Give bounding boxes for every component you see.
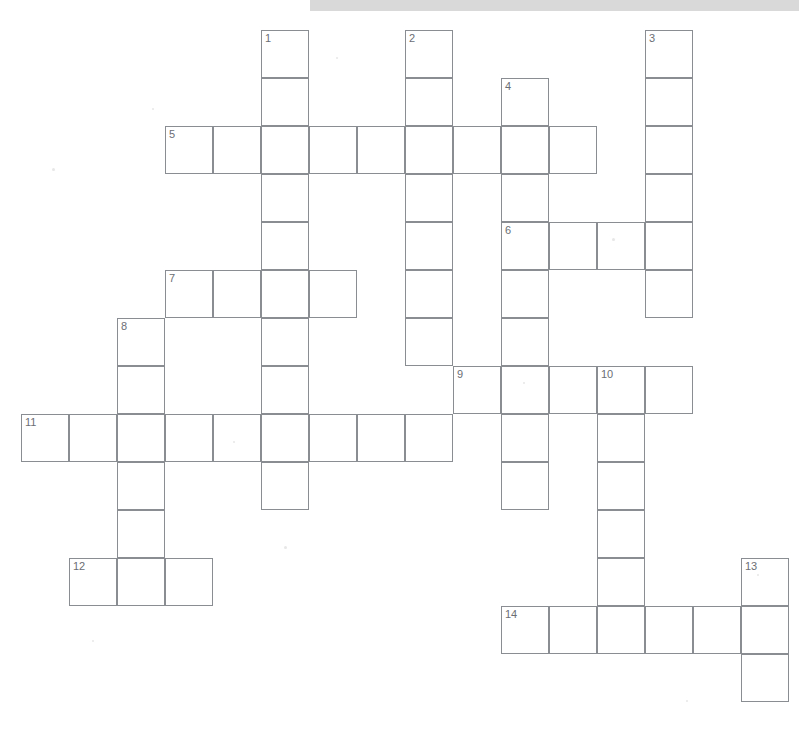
grid-cell-r11-c15[interactable]: 13 [741,558,789,606]
clue-number-1: 1 [265,32,271,45]
grid-cell-r12-c14[interactable] [693,606,741,654]
crossword-grid[interactable]: 1234567891011121314 [0,0,799,729]
grid-cell-r4-c12[interactable] [597,222,645,270]
grid-cell-r2-c4[interactable] [213,126,261,174]
clue-number-4: 4 [505,80,511,93]
grid-cell-r4-c8[interactable] [405,222,453,270]
grid-cell-r6-c2[interactable]: 8 [117,318,165,366]
grid-cell-r7-c9[interactable]: 9 [453,366,501,414]
clue-number-9: 9 [457,368,463,381]
paper-speck-0 [52,168,55,171]
grid-cell-r1-c10[interactable]: 4 [501,78,549,126]
grid-cell-r8-c8[interactable] [405,414,453,462]
paper-speck-2 [336,57,338,59]
paper-speck-4 [612,238,615,241]
clue-number-11: 11 [25,416,36,429]
grid-cell-r6-c10[interactable] [501,318,549,366]
grid-cell-r3-c5[interactable] [261,174,309,222]
paper-speck-1 [152,108,154,110]
paper-speck-9 [686,700,688,702]
grid-cell-r5-c4[interactable] [213,270,261,318]
clue-number-13: 13 [745,560,757,573]
clue-number-3: 3 [649,32,655,45]
grid-cell-r11-c12[interactable] [597,558,645,606]
grid-cell-r3-c10[interactable] [501,174,549,222]
clue-number-2: 2 [409,32,415,45]
grid-cell-r8-c2[interactable] [117,414,165,462]
clue-number-10: 10 [601,368,613,381]
paper-speck-8 [92,640,94,642]
grid-cell-r9-c2[interactable] [117,462,165,510]
grid-cell-r11-c1[interactable]: 12 [69,558,117,606]
grid-cell-r2-c9[interactable] [453,126,501,174]
grid-cell-r5-c10[interactable] [501,270,549,318]
grid-cell-r12-c12[interactable] [597,606,645,654]
grid-cell-r12-c10[interactable]: 14 [501,606,549,654]
grid-cell-r1-c13[interactable] [645,78,693,126]
grid-cell-r8-c1[interactable] [69,414,117,462]
grid-cell-r8-c6[interactable] [309,414,357,462]
grid-cell-r2-c7[interactable] [357,126,405,174]
grid-cell-r8-c5[interactable] [261,414,309,462]
grid-cell-r12-c11[interactable] [549,606,597,654]
clue-number-12: 12 [73,560,85,573]
grid-cell-r8-c4[interactable] [213,414,261,462]
clue-number-5: 5 [169,128,175,141]
grid-cell-r9-c5[interactable] [261,462,309,510]
grid-cell-r5-c6[interactable] [309,270,357,318]
clue-number-14: 14 [505,608,517,621]
grid-cell-r6-c5[interactable] [261,318,309,366]
grid-cell-r8-c12[interactable] [597,414,645,462]
grid-cell-r7-c10[interactable] [501,366,549,414]
grid-cell-r5-c3[interactable]: 7 [165,270,213,318]
grid-cell-r2-c3[interactable]: 5 [165,126,213,174]
grid-cell-r6-c8[interactable] [405,318,453,366]
grid-cell-r3-c8[interactable] [405,174,453,222]
grid-cell-r7-c12[interactable]: 10 [597,366,645,414]
grid-cell-r11-c3[interactable] [165,558,213,606]
grid-cell-r7-c2[interactable] [117,366,165,414]
paper-speck-7 [757,574,759,576]
grid-cell-r12-c13[interactable] [645,606,693,654]
grid-cell-r1-c5[interactable] [261,78,309,126]
grid-cell-r8-c10[interactable] [501,414,549,462]
grid-cell-r13-c15[interactable] [741,654,789,702]
grid-cell-r11-c2[interactable] [117,558,165,606]
grid-cell-r7-c11[interactable] [549,366,597,414]
grid-cell-r8-c7[interactable] [357,414,405,462]
grid-cell-r2-c8[interactable] [405,126,453,174]
grid-cell-r4-c13[interactable] [645,222,693,270]
grid-cell-r2-c6[interactable] [309,126,357,174]
clue-number-8: 8 [121,320,127,333]
grid-cell-r4-c11[interactable] [549,222,597,270]
grid-cell-r2-c10[interactable] [501,126,549,174]
grid-cell-r2-c5[interactable] [261,126,309,174]
grid-cell-r4-c10[interactable]: 6 [501,222,549,270]
clue-number-6: 6 [505,224,511,237]
grid-cell-r1-c8[interactable] [405,78,453,126]
grid-cell-r0-c13[interactable]: 3 [645,30,693,78]
grid-cell-r3-c13[interactable] [645,174,693,222]
grid-cell-r4-c5[interactable] [261,222,309,270]
grid-cell-r7-c13[interactable] [645,366,693,414]
grid-cell-r5-c13[interactable] [645,270,693,318]
paper-speck-5 [233,441,235,443]
paper-speck-3 [284,546,287,549]
grid-cell-r7-c5[interactable] [261,366,309,414]
clue-number-7: 7 [169,272,175,285]
grid-cell-r0-c5[interactable]: 1 [261,30,309,78]
grid-cell-r8-c3[interactable] [165,414,213,462]
grid-cell-r2-c13[interactable] [645,126,693,174]
grid-cell-r9-c10[interactable] [501,462,549,510]
grid-cell-r10-c2[interactable] [117,510,165,558]
grid-cell-r9-c12[interactable] [597,462,645,510]
grid-cell-r10-c12[interactable] [597,510,645,558]
grid-cell-r12-c15[interactable] [741,606,789,654]
paper-speck-6 [523,382,525,384]
grid-cell-r5-c5[interactable] [261,270,309,318]
grid-cell-r0-c8[interactable]: 2 [405,30,453,78]
crossword-puzzle-page: 1234567891011121314 [0,0,799,729]
grid-cell-r5-c8[interactable] [405,270,453,318]
grid-cell-r2-c11[interactable] [549,126,597,174]
grid-cell-r8-c0[interactable]: 11 [21,414,69,462]
